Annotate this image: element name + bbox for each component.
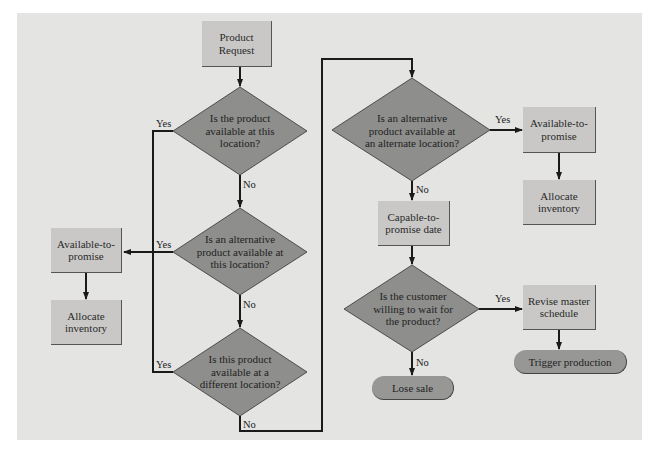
decision-d5-text: Is the customer willing to wait for the … — [368, 288, 458, 330]
available-to-promise-left-box: Available-to-promise — [51, 228, 122, 273]
lose-sale-terminal: Lose sale — [372, 376, 454, 400]
decision-d4-text: Is an alternative product available at a… — [364, 104, 460, 158]
decision-d2-text: Is an alternative product available at t… — [191, 231, 289, 273]
d3-yes-label: Yes — [156, 359, 171, 370]
product-request-box: Product Request — [202, 21, 272, 67]
d2-yes-label: Yes — [156, 239, 171, 250]
d5-no-label: No — [416, 357, 429, 368]
d4-no-label: No — [416, 184, 429, 195]
d2-no-label: No — [243, 299, 256, 310]
allocate-inventory-left-box: Allocate inventory — [51, 300, 122, 345]
d4-yes-label: Yes — [495, 114, 510, 125]
allocate-inventory-right-box: Allocate inventory — [523, 180, 596, 225]
trigger-production-terminal: Trigger production — [514, 350, 627, 374]
revise-master-schedule-box: Revise master schedule — [523, 285, 596, 330]
d1-yes-label: Yes — [156, 118, 171, 129]
available-to-promise-right-box: Available-to-promise — [523, 107, 596, 153]
d5-yes-label: Yes — [495, 293, 510, 304]
d1-no-label: No — [243, 179, 256, 190]
capable-to-promise-box: Capable-to-promise date — [378, 201, 450, 246]
d3-no-label: No — [243, 419, 256, 430]
decision-d1-text: Is the product available at this locatio… — [196, 110, 284, 152]
decision-d3-text: Is this product available at a different… — [193, 351, 287, 393]
